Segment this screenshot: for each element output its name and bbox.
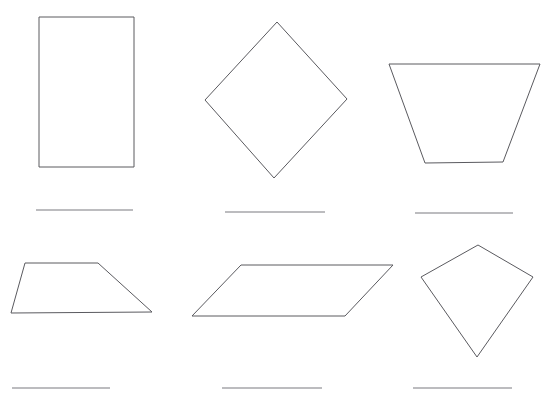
worksheet-page: Quadrilateral Identification Worksheet	[0, 0, 554, 400]
shape-trapezoid-bottom[interactable]	[11, 263, 152, 313]
shape-rhombus[interactable]	[205, 22, 347, 178]
figure-group-1	[36, 17, 134, 210]
figure-group-4	[11, 263, 152, 388]
shape-rectangle[interactable]	[39, 17, 134, 167]
shape-kite[interactable]	[421, 245, 533, 357]
figure-group-2	[205, 22, 347, 212]
figure-group-5	[192, 265, 393, 388]
worksheet-canvas	[0, 0, 554, 400]
figure-group-3	[389, 64, 540, 213]
figure-group-6	[413, 245, 533, 388]
shape-trapezoid-top[interactable]	[389, 64, 540, 163]
shape-parallelogram[interactable]	[192, 265, 393, 316]
